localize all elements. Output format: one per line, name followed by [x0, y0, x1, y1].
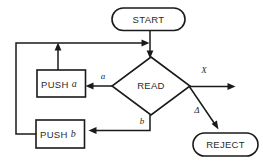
node-push-a[interactable]: PUSHa: [37, 70, 86, 97]
edge-read-to-push-a: [86, 83, 113, 90]
node-push-a-label-main: PUSH: [41, 78, 69, 89]
node-read-label: READ: [137, 80, 165, 91]
edge-push-a-to-loop: [55, 43, 62, 71]
edge-read-to-push-b-arrowhead: [89, 127, 97, 134]
node-push-b[interactable]: PUSHb: [36, 120, 85, 148]
edge-read-to-accept-x: [190, 83, 236, 90]
node-push-b-label-main: PUSH: [40, 128, 68, 139]
edge-read-to-push-a-arrowhead: [86, 83, 94, 90]
flowchart-canvas: START READ PUSHa PUSHb REJECT a: [0, 0, 263, 162]
node-read[interactable]: READ: [112, 57, 190, 115]
edge-label-branch-delta: Δ: [193, 105, 199, 115]
node-push-a-label: PUSHa: [41, 78, 77, 89]
flowchart-diagram: START READ PUSHa PUSHb REJECT a: [0, 0, 263, 162]
edge-label-branch-b: b: [140, 116, 145, 126]
node-push-b-label: PUSHb: [40, 128, 76, 139]
node-reject-label: REJECT: [206, 139, 245, 150]
node-push-b-label-italic: b: [71, 128, 76, 139]
node-start-label: START: [133, 14, 165, 25]
edge-push-b-to-loop-arrowhead: [142, 40, 150, 47]
edge-label-branch-x: X: [200, 65, 207, 75]
node-push-a-label-italic: a: [72, 78, 77, 89]
edge-read-to-accept-x-arrowhead: [228, 83, 236, 90]
edge-start-to-read: [147, 31, 154, 59]
node-reject[interactable]: REJECT: [193, 133, 258, 156]
edge-read-to-reject-line: [189, 86, 216, 125]
edge-label-branch-a: a: [101, 71, 106, 81]
node-start[interactable]: START: [112, 8, 185, 31]
